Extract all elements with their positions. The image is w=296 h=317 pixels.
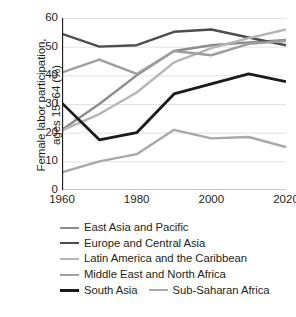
legend-line-swatch-icon [60, 258, 79, 260]
legend-label: Sub-Saharan Africa [173, 284, 270, 297]
y-tick-label-60: 60 [36, 12, 58, 24]
legend-row: South AsiaSub-Saharan Africa [60, 282, 292, 298]
y-tick-label-30: 30 [36, 98, 58, 110]
legend-label: Middle East and North Africa [84, 268, 226, 281]
legend-item[interactable]: Sub-Saharan Africa [149, 284, 270, 297]
legend-row: East Asia and Pacific [60, 220, 292, 236]
legend-label: South Asia [84, 284, 138, 297]
chart-figure: Female labor participation, ages 15–64 (… [0, 0, 296, 317]
legend-item[interactable]: Middle East and North Africa [60, 268, 226, 281]
y-tick-label-20: 20 [36, 127, 58, 139]
y-tick-label-50: 50 [36, 41, 58, 53]
y-axis-tick-labels: 0102030405060 [32, 0, 58, 210]
legend-item[interactable]: East Asia and Pacific [60, 221, 188, 234]
series-lines [62, 29, 286, 172]
plot-area [62, 18, 286, 190]
legend-line-swatch-icon [60, 274, 79, 276]
legend-row: Latin America and the Caribbean [60, 251, 292, 267]
legend-item[interactable]: Europe and Central Asia [60, 237, 205, 250]
y-tick-label-40: 40 [36, 69, 58, 81]
legend-item[interactable]: South Asia [60, 284, 138, 297]
x-tick-label-1960: 1960 [42, 193, 82, 205]
legend-line-swatch-icon [60, 289, 79, 292]
x-axis-tick-labels: 1960198020002020 [62, 193, 286, 209]
legend-line-swatch-icon [60, 242, 79, 244]
legend-line-swatch-icon [60, 227, 79, 229]
line-chart-svg [62, 18, 286, 190]
x-tick-label-1980: 1980 [117, 193, 157, 205]
legend-row: Middle East and North Africa [60, 267, 292, 283]
legend-line-swatch-icon [149, 289, 168, 291]
legend-label: Latin America and the Caribbean [84, 252, 247, 265]
legend-label: Europe and Central Asia [84, 237, 205, 250]
y-tick-label-10: 10 [36, 155, 58, 167]
legend-item[interactable]: Latin America and the Caribbean [60, 252, 247, 265]
legend-row: Europe and Central Asia [60, 236, 292, 252]
x-tick-label-2020: 2020 [266, 193, 296, 205]
legend-label: East Asia and Pacific [84, 221, 188, 234]
chart-legend: East Asia and PacificEurope and Central … [0, 216, 296, 317]
x-tick-label-2000: 2000 [191, 193, 231, 205]
